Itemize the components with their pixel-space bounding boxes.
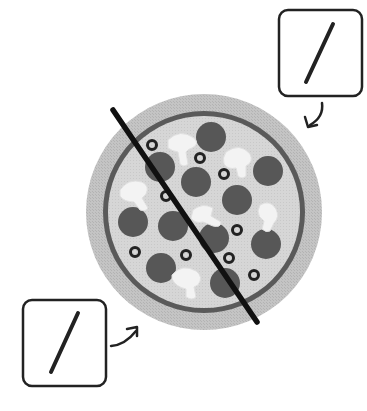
callout-bottom-left: [23, 300, 137, 386]
arrow-up-right-icon: [111, 331, 136, 346]
callout-top-right: [279, 10, 362, 127]
arrow-down-left-icon: [310, 103, 322, 125]
pepperoni: [181, 167, 211, 197]
pepperoni: [253, 156, 283, 186]
pepperoni: [222, 185, 252, 215]
diagram-canvas: [0, 0, 367, 411]
pepperoni: [196, 122, 226, 152]
pepperoni: [199, 223, 229, 253]
pizza: [86, 94, 322, 330]
pepperoni: [251, 229, 281, 259]
pepperoni: [118, 207, 148, 237]
